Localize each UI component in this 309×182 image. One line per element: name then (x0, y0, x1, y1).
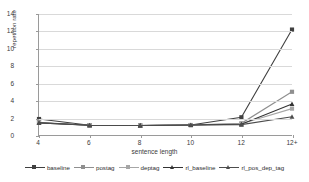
legend-item-rl_baseline[interactable]: rl_baseline (161, 163, 217, 171)
legend-swatch-icon (219, 163, 239, 171)
legend-label: deptag (141, 164, 160, 171)
chart-legend: baselinepostagdeptagrl_baselinerl_pos_de… (0, 163, 309, 171)
legend-swatch-icon (74, 163, 94, 171)
y-tick-label: 6 (0, 80, 14, 87)
series-line (39, 30, 292, 126)
line-chart: repetition rate 02468101214 468101212+ s… (0, 0, 309, 182)
legend-item-deptag[interactable]: deptag (117, 163, 162, 171)
x-tick-label: 4 (23, 139, 53, 146)
series-rl_pos_dep_tag (37, 114, 295, 127)
x-tick-mark (242, 135, 243, 138)
x-tick-label: 8 (125, 139, 155, 146)
x-tick-label: 10 (175, 139, 205, 146)
y-tick-label: 8 (0, 62, 14, 69)
y-tick-label: 0 (0, 132, 14, 139)
data-point-marker (290, 102, 295, 106)
legend-item-postag[interactable]: postag (72, 163, 117, 171)
legend-swatch-icon (119, 163, 139, 171)
x-tick-mark (90, 135, 91, 138)
legend-label: postag (96, 164, 115, 171)
y-tick-mark (36, 49, 39, 50)
gridline (39, 101, 292, 102)
gridline (39, 31, 292, 32)
plot-area (38, 14, 292, 136)
y-tick-label: 2 (0, 115, 14, 122)
legend-item-rl_pos_dep_tag[interactable]: rl_pos_dep_tag (217, 163, 286, 171)
gridline (39, 14, 292, 15)
y-tick-label: 10 (0, 45, 14, 52)
y-tick-mark (36, 84, 39, 85)
gridline (39, 84, 292, 85)
y-tick-label: 12 (0, 27, 14, 34)
y-tick-label: 14 (0, 10, 14, 17)
x-tick-mark (39, 135, 40, 138)
gridline (39, 49, 292, 50)
x-tick-label: 12 (226, 139, 256, 146)
legend-label: rl_pos_dep_tag (241, 164, 284, 171)
legend-label: rl_baseline (185, 164, 215, 171)
y-tick-mark (36, 101, 39, 102)
x-axis-title-label: sentence length (132, 148, 178, 155)
legend-label: baseline (47, 164, 70, 171)
x-tick-label: 12+ (277, 139, 307, 146)
y-tick-mark (36, 66, 39, 67)
gridline (39, 66, 292, 67)
gridline (39, 119, 292, 120)
y-tick-mark (36, 119, 39, 120)
y-tick-label: 4 (0, 97, 14, 104)
legend-swatch-icon (163, 163, 183, 171)
series-baseline (37, 27, 294, 127)
data-point-marker (290, 90, 294, 94)
legend-swatch-icon (25, 163, 45, 171)
data-point-marker (290, 107, 294, 111)
x-tick-mark (293, 135, 294, 138)
legend-item-baseline[interactable]: baseline (23, 163, 72, 171)
x-tick-mark (191, 135, 192, 138)
x-tick-mark (141, 135, 142, 138)
x-axis-title: sentence length (0, 148, 309, 155)
y-tick-mark (36, 14, 39, 15)
x-tick-label: 6 (74, 139, 104, 146)
y-tick-mark (36, 31, 39, 32)
